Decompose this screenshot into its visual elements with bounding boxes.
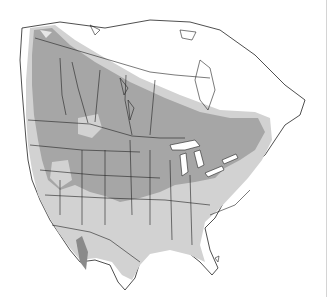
- north-america-map: [0, 0, 328, 297]
- range-map: [0, 0, 328, 297]
- right-edge-line: [326, 0, 327, 297]
- florida-lake: [215, 256, 219, 262]
